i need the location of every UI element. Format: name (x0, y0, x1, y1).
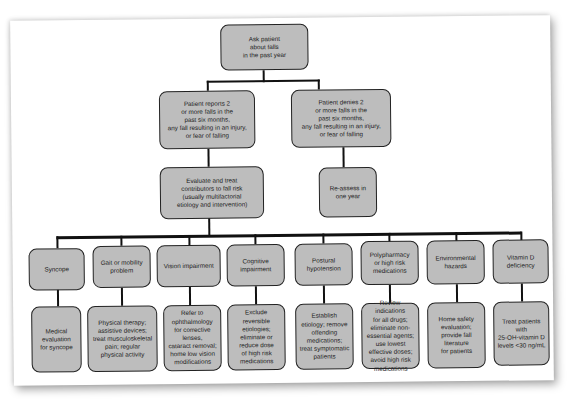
box-patient-reports-falls: Patient reports 2 or more falls in the p… (159, 90, 256, 149)
flowchart-paper: Ask patient about falls in the past year… (10, 15, 554, 386)
box-action-environmental: Home safety evaluation; provide fall lit… (427, 302, 486, 369)
box-action-cognitive: Exclude reversible etiologies; eliminate… (227, 304, 286, 371)
box-action-polypharmacy: Review indications for all drugs; elimin… (361, 303, 420, 370)
connector (254, 234, 256, 244)
connector (207, 80, 320, 83)
box-reassess-one-year: Re-assess in one year (319, 167, 378, 218)
box-action-vision: Refer to ophthalmology for corrective le… (163, 305, 222, 372)
box-vitamin-d-deficiency: Vitamin D deficiency (492, 239, 548, 284)
connector (121, 288, 123, 306)
connector (120, 236, 122, 246)
box-environmental-hazards: Environmental hazards (426, 240, 484, 285)
box-vision-impairment: Vision impairment (156, 245, 220, 288)
connector (207, 81, 209, 91)
root-box-ask-about-falls: Ask patient about falls in the past year (220, 24, 308, 71)
box-cognitive-impairment: Cognitive impairment (226, 244, 284, 287)
box-action-vitamin-d: Treat patients with 25-OH-vitamin D leve… (493, 301, 550, 366)
connector (323, 286, 325, 304)
box-syncope: Syncope (28, 248, 84, 291)
box-postural-hypotension: Postural hypotension (294, 243, 352, 286)
box-action-syncope: Medical evaluation for syncope (31, 306, 82, 373)
box-patient-denies-falls: Patient denies 2 or more falls in the pa… (291, 89, 392, 148)
box-polypharmacy: Polypharmacy or high risk medications (360, 241, 418, 286)
box-action-gait: Physical therapy; assistive devices; tre… (87, 305, 158, 372)
connector (322, 234, 324, 244)
connector (56, 231, 521, 238)
connector (456, 284, 458, 302)
connector (56, 236, 58, 248)
connector (188, 235, 190, 245)
box-action-postural: Establish etiology; remove offending med… (295, 303, 354, 370)
connector (189, 287, 191, 305)
box-gait-mobility: Gait or mobility problem (92, 245, 150, 288)
connector (207, 149, 209, 167)
box-evaluate-and-treat: Evaluate and treat contributors to fall … (160, 166, 265, 219)
connector (255, 286, 257, 304)
connector (57, 288, 59, 306)
connector (342, 147, 344, 167)
connector (318, 80, 320, 90)
connector (521, 283, 523, 301)
